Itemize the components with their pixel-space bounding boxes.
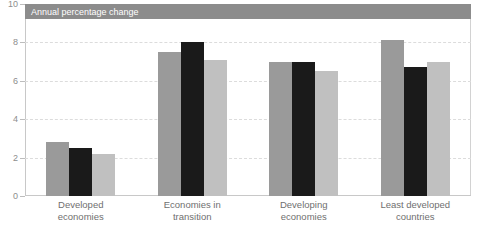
bar (92, 154, 115, 196)
bar (158, 52, 181, 196)
y-tick-mark (20, 196, 25, 197)
category-label-line: Least developed (360, 199, 472, 211)
category-label-line: Developed (25, 199, 137, 211)
y-tick-label: 10 (0, 0, 18, 9)
plot-area: Annual percentage change (25, 4, 471, 196)
bar (427, 62, 450, 196)
bar-group (158, 4, 227, 196)
y-tick-label: 2 (0, 153, 18, 162)
bar (404, 67, 427, 196)
bar (292, 62, 315, 196)
y-tick-mark (20, 4, 25, 5)
bar (381, 40, 404, 196)
y-axis: 1086420 (0, 0, 18, 225)
y-tick-mark (20, 119, 25, 120)
category-axis-labels: DevelopedeconomiesEconomies intransition… (25, 199, 471, 225)
bar-group (46, 4, 115, 196)
y-tick-label: 0 (0, 192, 18, 201)
category-label: Least developedcountries (360, 199, 472, 223)
y-tick-mark (20, 158, 25, 159)
category-label-line: countries (360, 211, 472, 223)
y-tick-label: 8 (0, 38, 18, 47)
bar-group (269, 4, 338, 196)
y-tick-mark (20, 42, 25, 43)
y-tick-label: 6 (0, 76, 18, 85)
category-label-line: Developing (248, 199, 360, 211)
category-label-line: Economies in (137, 199, 249, 211)
category-label: Economies intransition (137, 199, 249, 223)
category-label: Developingeconomies (248, 199, 360, 223)
bar (269, 62, 292, 196)
bar (181, 42, 204, 196)
bar-chart: 1086420 Annual percentage change Develop… (0, 0, 479, 225)
category-label-line: transition (137, 211, 249, 223)
bar (315, 71, 338, 196)
bars-layer (25, 4, 471, 196)
y-tick-label: 4 (0, 115, 18, 124)
bar (69, 148, 92, 196)
bar-group (381, 4, 450, 196)
y-tick-mark (20, 81, 25, 82)
category-label-line: economies (248, 211, 360, 223)
bar (204, 60, 227, 196)
category-label-line: economies (25, 211, 137, 223)
bar (46, 142, 69, 196)
category-label: Developedeconomies (25, 199, 137, 223)
